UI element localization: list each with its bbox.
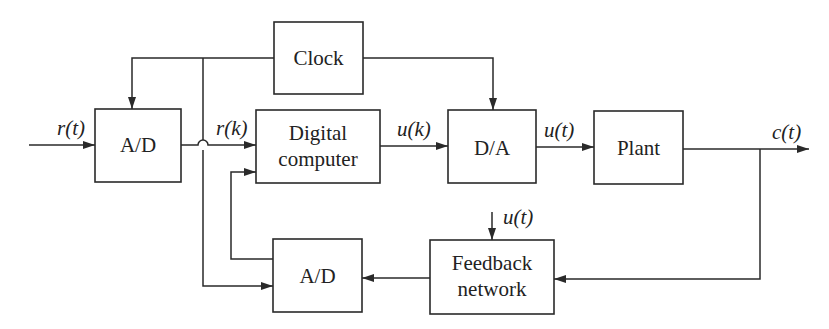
plant-label: Plant — [617, 136, 660, 160]
block-ad-bottom: A/D — [273, 239, 362, 312]
feedback-network-label-line2: network — [458, 277, 527, 301]
signal-sampled-reference-label: r(k) — [216, 116, 247, 140]
block-digital-computer: Digital computer — [256, 110, 380, 183]
da-label: D/A — [474, 136, 511, 160]
ad-bottom-to-computer-arrow — [231, 172, 273, 259]
signal-control-label: u(t) — [544, 118, 574, 142]
block-plant: Plant — [594, 111, 683, 184]
ad-bottom-label: A/D — [299, 264, 335, 288]
control-system-block-diagram: Clock A/D Digital computer D/A Plant Fee… — [0, 0, 829, 329]
digital-computer-label-line1: Digital — [289, 121, 347, 145]
feedback-network-label-line1: Feedback — [452, 251, 533, 275]
digital-computer-label-line2: computer — [278, 147, 357, 171]
ad-to-computer-arrow — [181, 140, 256, 145]
ad-top-label: A/D — [120, 133, 156, 157]
clock-to-da-arrow — [363, 58, 493, 110]
block-da: D/A — [448, 110, 536, 183]
block-ad-top: A/D — [95, 109, 181, 182]
signal-feedback-input-label: u(t) — [503, 205, 533, 229]
clock-label: Clock — [293, 46, 344, 70]
block-feedback-network: Feedback network — [430, 240, 554, 314]
block-clock: Clock — [274, 22, 363, 94]
signal-output-label: c(t) — [772, 120, 801, 144]
signal-computer-output-label: u(k) — [397, 117, 431, 141]
signal-input-label: r(t) — [57, 116, 85, 140]
